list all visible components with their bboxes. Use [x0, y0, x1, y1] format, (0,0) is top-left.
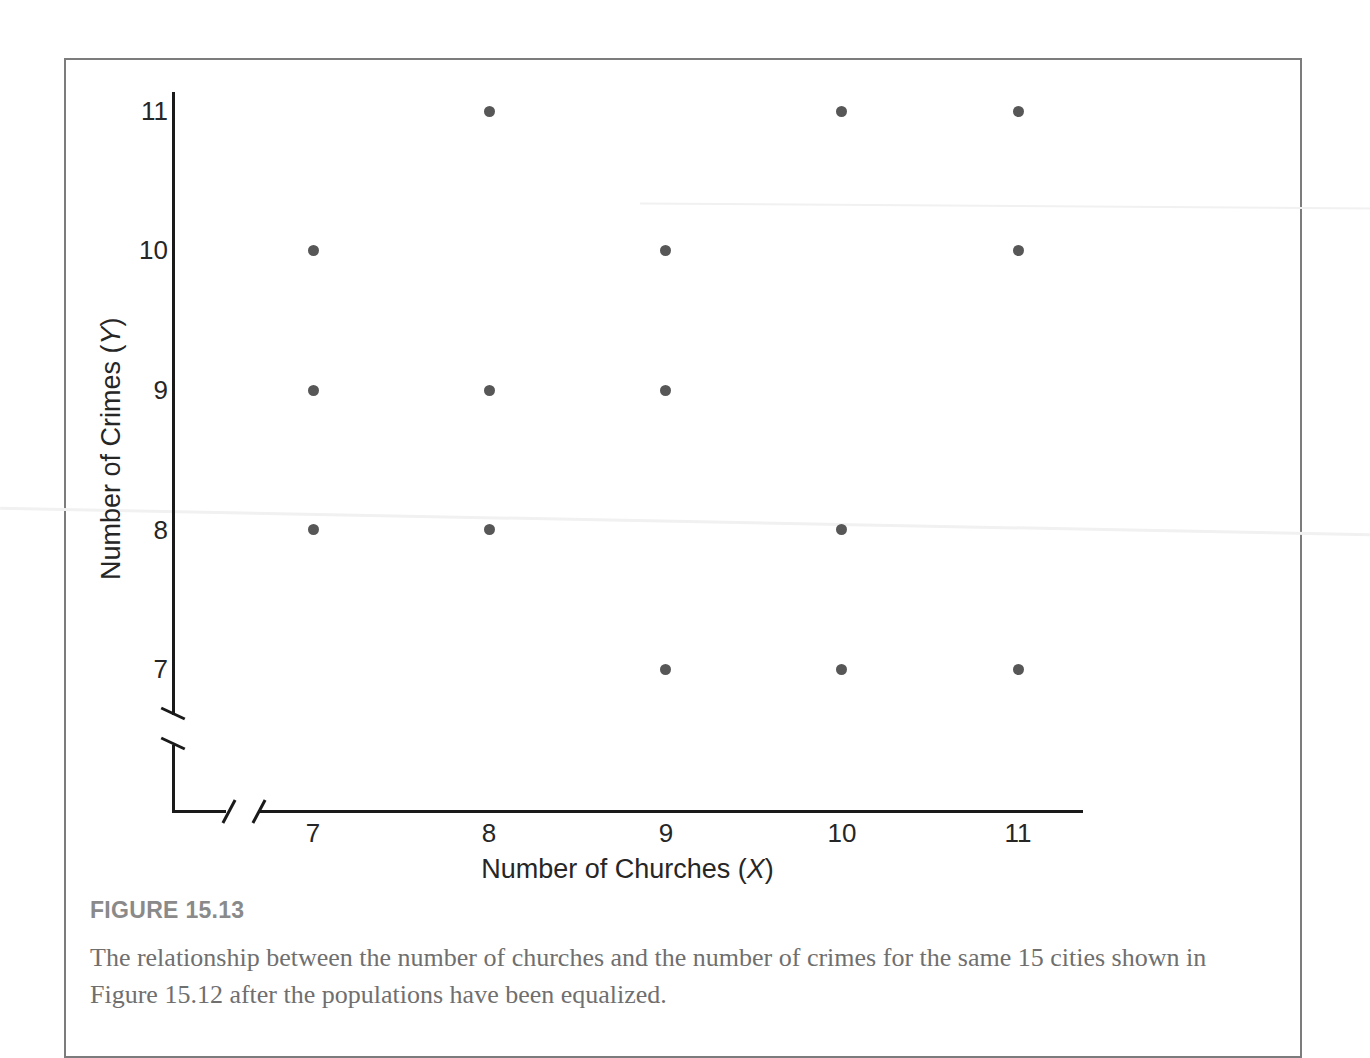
figure-caption: FIGURE 15.13 The relationship between th… — [90, 897, 1220, 1014]
data-point — [484, 106, 495, 117]
x-tick-label: 9 — [659, 818, 673, 849]
caption-text: The relationship between the number of c… — [90, 940, 1220, 1014]
data-point — [308, 245, 319, 256]
y-axis-variable: Y — [96, 326, 126, 344]
x-axis-line-stub — [172, 810, 226, 813]
data-point — [660, 664, 671, 675]
x-axis-title-text: Number of Churches ( — [481, 854, 747, 884]
x-tick-label: 7 — [306, 818, 320, 849]
data-point — [308, 385, 319, 396]
data-point — [484, 524, 495, 535]
data-point — [1013, 106, 1024, 117]
data-point — [1013, 245, 1024, 256]
x-tick-label: 8 — [482, 818, 496, 849]
y-axis-line-lower — [172, 745, 175, 813]
x-tick-label: 10 — [828, 818, 857, 849]
x-axis-line — [258, 810, 1083, 813]
caption-heading: FIGURE 15.13 — [90, 897, 1220, 924]
y-tick-label: 10 — [124, 235, 168, 266]
y-axis-title: Number of Crimes (Y) — [96, 317, 127, 580]
data-point — [1013, 664, 1024, 675]
y-tick-label: 7 — [124, 654, 168, 685]
data-point — [484, 385, 495, 396]
y-axis-line — [172, 92, 175, 715]
y-axis-title-text: Number of Crimes ( — [96, 344, 126, 580]
y-tick-label: 8 — [124, 515, 168, 546]
y-tick-label: 11 — [124, 96, 168, 127]
data-point — [660, 245, 671, 256]
x-axis-variable: X — [747, 854, 765, 884]
data-point — [836, 106, 847, 117]
x-tick-label: 11 — [1005, 818, 1032, 849]
y-tick-label: 9 — [124, 375, 168, 406]
data-point — [308, 524, 319, 535]
data-point — [660, 385, 671, 396]
x-axis-title: Number of Churches (X) — [172, 854, 1083, 885]
data-point — [836, 664, 847, 675]
